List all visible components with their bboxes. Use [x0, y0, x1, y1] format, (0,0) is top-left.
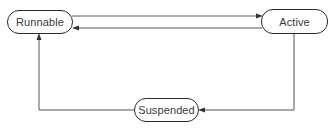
state-node-runnable: Runnable	[7, 10, 73, 34]
state-label-runnable: Runnable	[16, 16, 64, 28]
arrowhead-icon	[72, 26, 79, 31]
state-node-active: Active	[261, 9, 328, 34]
state-node-suspended: Suspended	[134, 98, 199, 122]
arrowhead-icon	[37, 33, 42, 40]
edge-active-to-suspended	[198, 33, 294, 113]
state-label-active: Active	[279, 16, 310, 28]
edge-suspended-to-runnable	[37, 33, 135, 110]
arrowhead-icon	[198, 108, 205, 113]
state-label-suspended: Suspended	[138, 104, 195, 116]
edge-runnable-to-active	[72, 14, 263, 19]
edge-active-to-runnable	[72, 26, 262, 31]
